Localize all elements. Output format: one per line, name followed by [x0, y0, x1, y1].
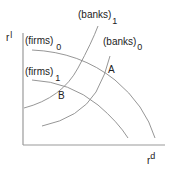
equilibrium-diagram: rl rd (firms)0 (firms)1 (banks)1 (banks)…: [0, 0, 176, 176]
x-axis-label: rd: [147, 151, 155, 166]
banks-1-label: (banks)1: [78, 9, 117, 26]
firms-1-curve: [32, 80, 128, 138]
firms-0-label: (firms)0: [25, 35, 61, 52]
firms-0-curve: [32, 50, 155, 138]
banks-0-label: (banks)0: [103, 36, 142, 52]
y-axis-label: rl: [6, 30, 12, 43]
firms-1-label: (firms)1: [25, 66, 60, 83]
point-b-label: B: [58, 90, 65, 101]
point-a-label: A: [108, 64, 115, 75]
